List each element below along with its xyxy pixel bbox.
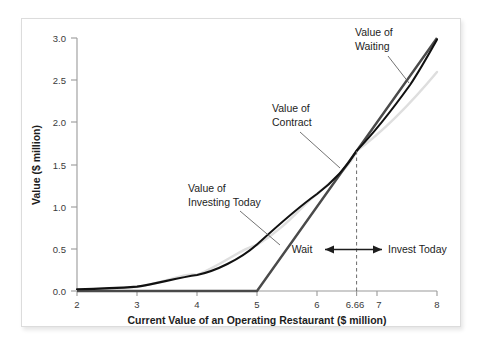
figure-root: 3.0 2.5 2.0 1.5 1.0 0.5 0.0 2 3 4 5 6 6.…: [0, 0, 480, 350]
y-tick-label-0-5: 0.5: [53, 244, 66, 255]
x-tick-label-3: 3: [134, 299, 139, 310]
decision-arrow-head-right: [373, 246, 382, 254]
y-tick-label-2-0: 2.0: [53, 117, 66, 128]
x-tick-label-6-66: 6.66: [346, 299, 365, 310]
series-value-of-investing-today: [77, 38, 437, 291]
annotation-contract-line2: Contract: [272, 116, 312, 128]
chart-canvas: 3.0 2.5 2.0 1.5 1.0 0.5 0.0 2 3 4 5 6 6.…: [0, 0, 480, 350]
x-axis: 2 3 4 5 6 6.66 7 8: [74, 291, 439, 310]
y-axis: 3.0 2.5 2.0 1.5 1.0 0.5 0.0: [53, 33, 77, 297]
x-tick-label-5: 5: [254, 299, 259, 310]
annotation-investing-line1: Value of: [188, 182, 226, 194]
x-tick-label-4: 4: [194, 299, 199, 310]
y-tick-label-3-0: 3.0: [53, 33, 66, 44]
annotation-value-of-contract: Value of Contract: [272, 102, 340, 168]
y-axis-title: Value ($ million): [30, 125, 42, 205]
series-value-of-waiting: [77, 72, 437, 290]
annotation-waiting-line2: Waiting: [355, 40, 390, 52]
x-tick-label-7: 7: [376, 299, 381, 310]
y-tick-label-2-5: 2.5: [53, 75, 66, 86]
decision-arrow-head-left: [325, 246, 334, 254]
annotation-waiting-line1: Value of: [355, 26, 393, 38]
annotation-investing-line2: Investing Today: [188, 196, 262, 208]
x-tick-label-8: 8: [434, 299, 439, 310]
x-tick-label-2: 2: [74, 299, 79, 310]
annotation-value-of-waiting: Value of Waiting: [355, 26, 409, 83]
series-value-of-contract: [77, 40, 437, 290]
y-tick-label-1-0: 1.0: [53, 202, 66, 213]
x-axis-title: Current Value of an Operating Restaurant…: [127, 314, 386, 326]
y-tick-label-0-0: 0.0: [53, 286, 66, 297]
decision-arrow-group: Wait Invest Today: [292, 243, 448, 255]
annotation-waiting-leader: [388, 56, 409, 83]
x-tick-label-6: 6: [314, 299, 319, 310]
annotation-wait-label: Wait: [292, 243, 313, 255]
annotation-invest-today-label: Invest Today: [388, 243, 448, 255]
annotation-contract-leader: [300, 132, 340, 168]
annotation-contract-line1: Value of: [272, 102, 310, 114]
y-tick-label-1-5: 1.5: [53, 160, 66, 171]
